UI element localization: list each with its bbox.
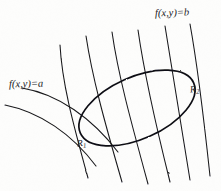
level-curve-label-a: f(x,y)=a bbox=[9, 79, 43, 90]
level-curve-label-b-text: f(x,y)=b bbox=[155, 6, 190, 18]
level-curve-label-b: f(x,y)=b bbox=[155, 7, 190, 19]
tangency-point-r1-subscript: 1 bbox=[83, 142, 87, 149]
paper-background bbox=[0, 0, 221, 191]
tangency-point-r2-subscript: 2 bbox=[196, 88, 200, 95]
tangency-point-label-r1: R1 bbox=[77, 139, 87, 149]
level-curve-label-a-text: f(x,y)=a bbox=[9, 78, 43, 90]
level-curve-diagram: f(x,y)=a f(x,y)=b R1 R2 bbox=[0, 0, 221, 191]
diagram-canvas bbox=[0, 0, 221, 191]
tangency-point-label-r2: R2 bbox=[190, 85, 200, 95]
